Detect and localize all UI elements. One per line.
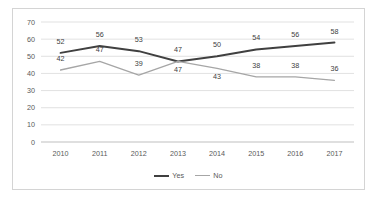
data-label-yes: 47 bbox=[174, 45, 182, 54]
y-axis-tick-label: 20 bbox=[27, 103, 35, 112]
data-label-no: 36 bbox=[330, 64, 338, 73]
data-label-no: 38 bbox=[252, 61, 260, 70]
data-label-yes: 50 bbox=[213, 40, 221, 49]
y-axis-tick-label: 10 bbox=[27, 120, 35, 129]
chart-frame: 0102030405060702010201120122013201420152… bbox=[12, 8, 365, 190]
x-axis-tick-label: 2011 bbox=[92, 149, 107, 158]
x-axis-tick-label: 2014 bbox=[209, 149, 225, 158]
data-label-yes: 56 bbox=[96, 30, 104, 39]
y-axis-tick-label: 50 bbox=[27, 52, 35, 61]
y-axis-tick-label: 30 bbox=[27, 86, 35, 95]
data-label-yes: 58 bbox=[330, 27, 338, 36]
data-label-no: 42 bbox=[57, 54, 65, 63]
data-label-no: 47 bbox=[174, 65, 182, 74]
data-label-yes: 54 bbox=[252, 33, 260, 42]
data-label-yes: 56 bbox=[291, 30, 299, 39]
line-chart: 0102030405060702010201120122013201420152… bbox=[13, 9, 366, 191]
x-axis-tick-label: 2016 bbox=[287, 149, 303, 158]
data-label-no: 38 bbox=[291, 61, 299, 70]
y-axis-tick-label: 60 bbox=[27, 35, 35, 44]
x-axis-tick-label: 2015 bbox=[248, 149, 264, 158]
data-label-yes: 53 bbox=[135, 35, 143, 44]
x-axis-tick-label: 2013 bbox=[170, 149, 186, 158]
x-axis-tick-label: 2017 bbox=[326, 149, 342, 158]
data-label-no: 47 bbox=[96, 45, 104, 54]
x-axis-tick-label: 2010 bbox=[53, 149, 69, 158]
y-axis-tick-label: 40 bbox=[27, 69, 35, 78]
data-label-yes: 52 bbox=[57, 37, 65, 46]
chart-plot-area: 0102030405060702010201120122013201420152… bbox=[13, 9, 364, 189]
x-axis-tick-label: 2012 bbox=[131, 149, 147, 158]
data-label-no: 39 bbox=[135, 59, 143, 68]
y-axis-tick-label: 0 bbox=[31, 138, 35, 147]
y-axis-tick-label: 70 bbox=[27, 18, 35, 27]
data-label-no: 43 bbox=[213, 72, 221, 81]
